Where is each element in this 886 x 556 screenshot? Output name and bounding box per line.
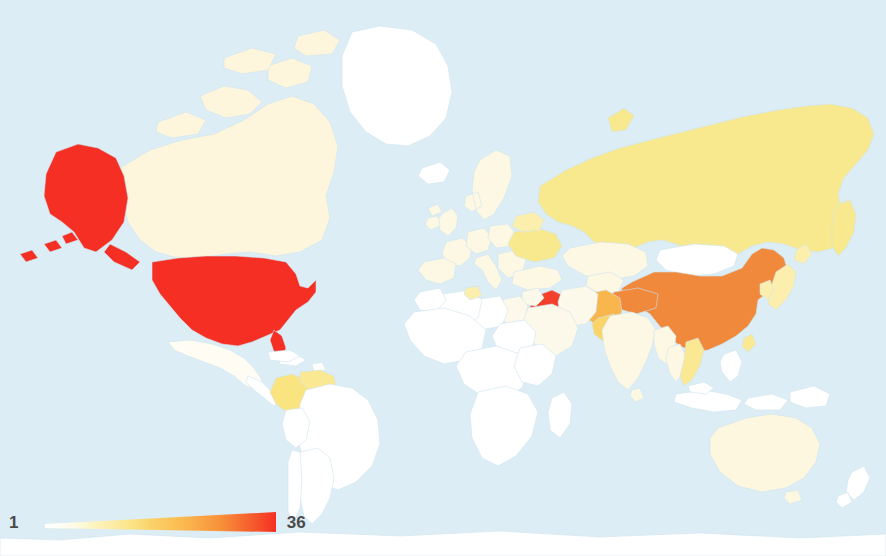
world-map-visualization: 1 [0,0,886,556]
map-canvas[interactable] [0,0,886,556]
world-map-svg[interactable] [0,0,886,556]
